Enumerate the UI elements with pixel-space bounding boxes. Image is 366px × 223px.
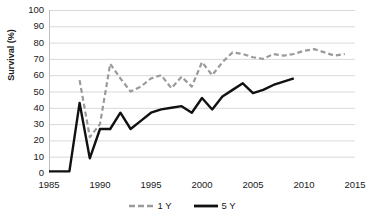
x-tick-label: 1990: [89, 179, 110, 190]
chart-legend: 1 Y5 Y: [0, 200, 365, 211]
legend-label: 1 Y: [157, 200, 171, 211]
legend-item-5y[interactable]: 5 Y: [194, 200, 236, 211]
x-tick-label: 2010: [293, 179, 314, 190]
x-tick-label: 2005: [242, 179, 263, 190]
x-tick-label: 2000: [191, 179, 212, 190]
legend-swatch-solid-line-icon: [194, 202, 218, 210]
legend-label: 5 Y: [222, 200, 236, 211]
x-tick-label: 2015: [344, 179, 365, 190]
legend-swatch-dashed-line-icon: [129, 202, 153, 210]
x-tick-label: 1995: [140, 179, 161, 190]
legend-item-1y[interactable]: 1 Y: [129, 200, 171, 211]
x-tick-label: 1985: [38, 179, 59, 190]
